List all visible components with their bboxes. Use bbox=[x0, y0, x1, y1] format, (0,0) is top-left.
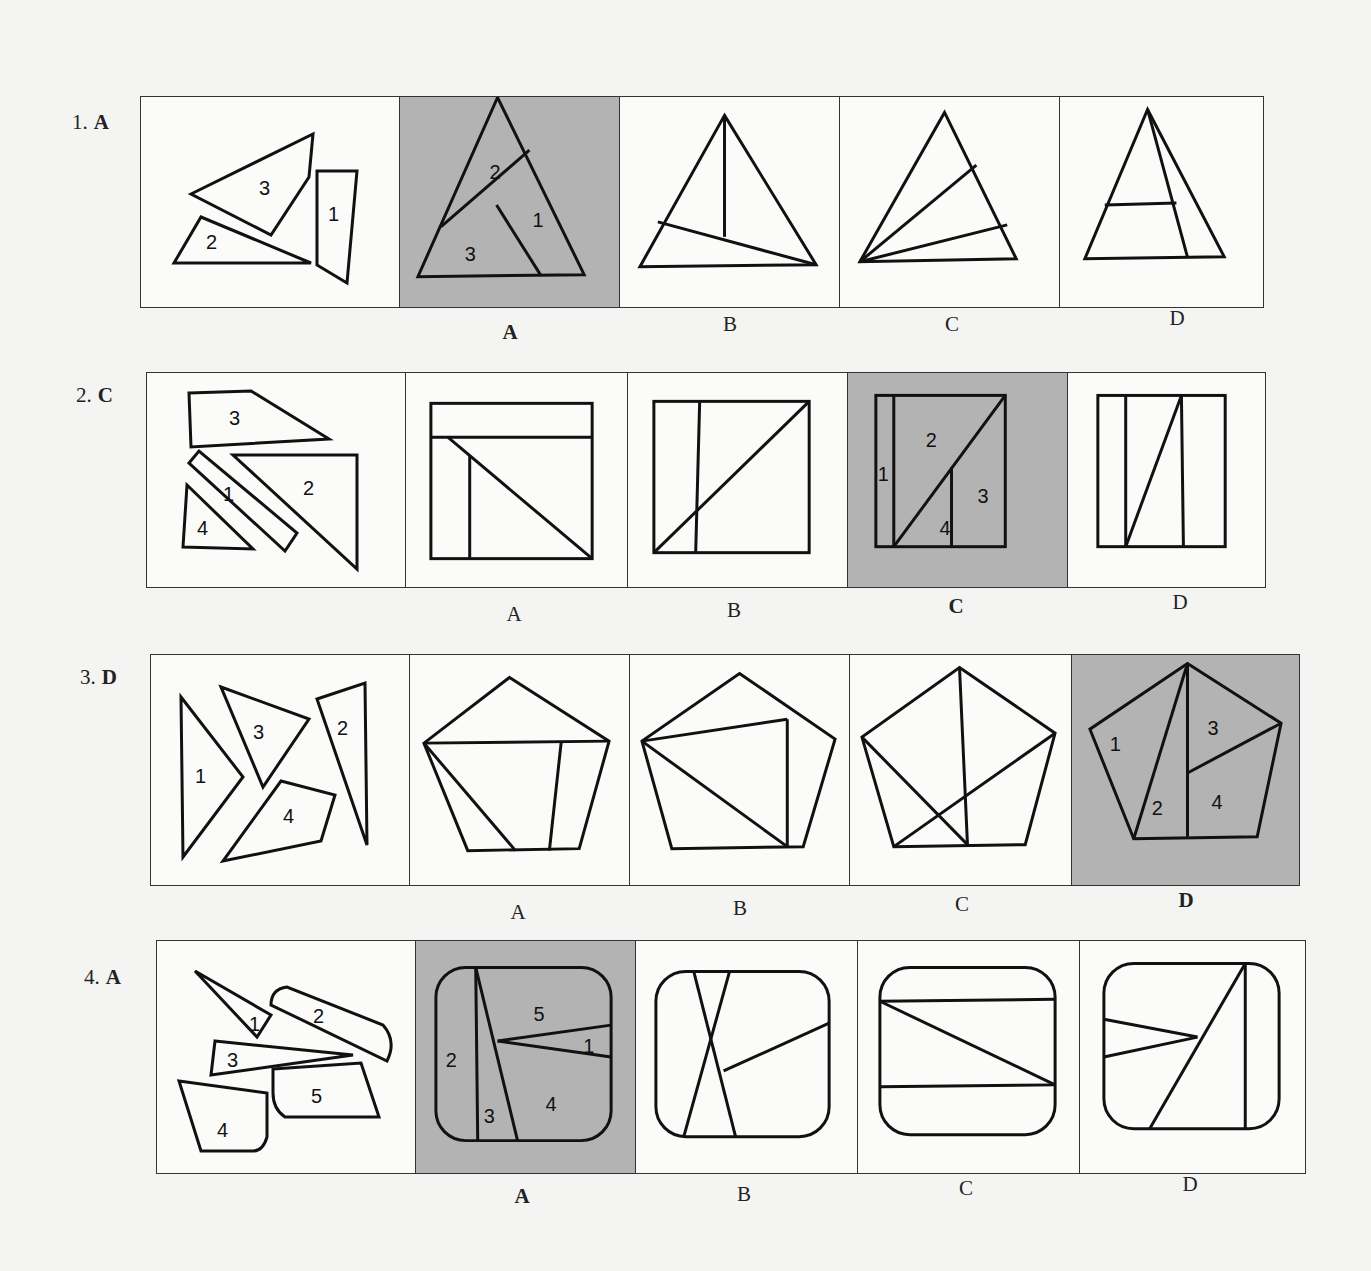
option-b-panel[interactable] bbox=[619, 97, 839, 307]
option-b-panel[interactable] bbox=[627, 373, 847, 587]
svg-text:3: 3 bbox=[484, 1105, 495, 1127]
option-label-b: B bbox=[724, 1182, 764, 1207]
option-b-panel[interactable] bbox=[635, 941, 857, 1173]
cut-line bbox=[880, 999, 1055, 1001]
rounded-square-outline bbox=[880, 967, 1055, 1134]
piece-1 bbox=[317, 171, 357, 283]
piece-3 bbox=[189, 391, 329, 447]
piece-5 bbox=[273, 1063, 379, 1117]
svg-text:1: 1 bbox=[328, 203, 339, 225]
rounded-square-outline bbox=[656, 971, 829, 1136]
svg-text:2: 2 bbox=[313, 1005, 324, 1027]
svg-text:1: 1 bbox=[583, 1035, 594, 1057]
svg-text:3: 3 bbox=[465, 243, 476, 265]
svg-text:4: 4 bbox=[197, 517, 208, 539]
option-label-c: C bbox=[932, 312, 972, 337]
cut-line bbox=[476, 967, 518, 1140]
cut-line bbox=[880, 1085, 1055, 1087]
svg-text:2: 2 bbox=[206, 231, 217, 253]
piece-3 bbox=[221, 687, 309, 787]
svg-text:4: 4 bbox=[1211, 791, 1222, 813]
svg-text:5: 5 bbox=[311, 1085, 322, 1107]
option-label-d: D bbox=[1170, 1172, 1210, 1197]
cut-line bbox=[424, 741, 609, 743]
problem-number: 3.D bbox=[80, 665, 117, 690]
cut-line bbox=[1187, 723, 1281, 773]
cut-line bbox=[880, 1001, 1055, 1085]
cut-line bbox=[684, 971, 730, 1136]
option-a-panel[interactable] bbox=[409, 655, 629, 885]
cut-line bbox=[1105, 203, 1177, 205]
svg-text:2: 2 bbox=[303, 477, 314, 499]
svg-text:4: 4 bbox=[283, 805, 294, 827]
option-label-c: C bbox=[942, 892, 982, 917]
answer-key: A bbox=[106, 965, 121, 989]
option-label-d: D bbox=[1166, 888, 1206, 913]
option-a-panel[interactable]: 5 2 1 3 4 bbox=[415, 941, 635, 1173]
option-c-panel[interactable] bbox=[839, 97, 1059, 307]
option-label-b: B bbox=[720, 896, 760, 921]
option-d-panel[interactable] bbox=[1059, 97, 1263, 307]
option-label-a: A bbox=[490, 320, 530, 345]
option-d-panel[interactable] bbox=[1079, 941, 1305, 1173]
option-d-panel[interactable]: 1 3 2 4 bbox=[1071, 655, 1299, 885]
option-c-panel[interactable] bbox=[857, 941, 1079, 1173]
option-label-a: A bbox=[498, 900, 538, 925]
rounded-square-outline bbox=[1104, 963, 1279, 1128]
svg-text:3: 3 bbox=[1207, 717, 1218, 739]
svg-text:1: 1 bbox=[223, 483, 234, 505]
pentagon-outline bbox=[424, 677, 609, 850]
puzzle-strip: 3 1 2 2 1 3 bbox=[140, 96, 1264, 308]
option-label-c: C bbox=[946, 1176, 986, 1201]
puzzle-strip: 3 1 2 4 bbox=[146, 372, 1266, 588]
svg-text:1: 1 bbox=[1110, 733, 1121, 755]
cut-line bbox=[694, 971, 736, 1136]
svg-text:2: 2 bbox=[446, 1049, 457, 1071]
pieces-panel: 1 2 3 5 4 bbox=[157, 941, 415, 1173]
pieces-panel: 3 1 2 4 bbox=[147, 373, 405, 587]
option-a-panel[interactable] bbox=[405, 373, 627, 587]
answer-key: D bbox=[102, 665, 117, 689]
option-label-d: D bbox=[1160, 590, 1200, 615]
svg-text:4: 4 bbox=[217, 1119, 228, 1141]
svg-text:3: 3 bbox=[977, 485, 988, 507]
cut-line bbox=[724, 1023, 830, 1071]
cut-line bbox=[654, 401, 809, 552]
cut-line bbox=[696, 401, 700, 552]
option-a-panel[interactable]: 2 1 3 bbox=[399, 97, 619, 307]
piece-2 bbox=[317, 683, 367, 845]
option-b-panel[interactable] bbox=[629, 655, 849, 885]
cut-line bbox=[642, 741, 787, 847]
svg-text:3: 3 bbox=[253, 721, 264, 743]
piece-4 bbox=[183, 485, 253, 549]
svg-text:1: 1 bbox=[195, 765, 206, 787]
triangle-outline bbox=[640, 115, 816, 266]
svg-text:2: 2 bbox=[926, 429, 937, 451]
problem-number: 1.A bbox=[72, 110, 109, 135]
cut-line bbox=[1181, 395, 1183, 546]
cut-line bbox=[1104, 1019, 1198, 1037]
option-d-panel[interactable] bbox=[1067, 373, 1265, 587]
problem-number: 4.A bbox=[84, 965, 121, 990]
svg-text:4: 4 bbox=[940, 517, 951, 539]
cut-line bbox=[1104, 1037, 1198, 1057]
option-c-panel[interactable]: 1 2 3 4 bbox=[847, 373, 1067, 587]
svg-text:3: 3 bbox=[229, 407, 240, 429]
puzzle-strip: 1 2 3 5 4 5 2 1 3 4 bbox=[156, 940, 1306, 1174]
option-label-c: C bbox=[936, 594, 976, 619]
cut-line bbox=[549, 741, 561, 851]
cut-line bbox=[1126, 395, 1182, 546]
pieces-panel: 1 3 2 4 bbox=[151, 655, 409, 885]
cut-line bbox=[476, 967, 478, 1140]
piece-2 bbox=[233, 455, 357, 569]
option-label-a: A bbox=[494, 602, 534, 627]
answer-key: C bbox=[98, 383, 113, 407]
option-label-d: D bbox=[1157, 306, 1197, 331]
cut-line bbox=[424, 743, 516, 851]
piece-2 bbox=[174, 217, 311, 263]
option-c-panel[interactable] bbox=[849, 655, 1071, 885]
svg-text:1: 1 bbox=[878, 463, 889, 485]
square-outline bbox=[1098, 395, 1225, 546]
svg-text:1: 1 bbox=[532, 209, 543, 231]
svg-text:4: 4 bbox=[545, 1093, 556, 1115]
